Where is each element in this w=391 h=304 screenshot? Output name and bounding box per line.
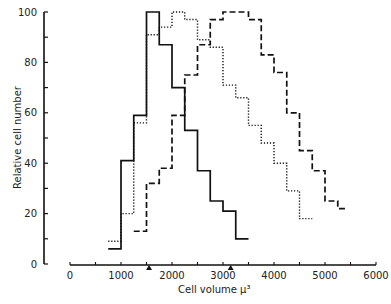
y-axis-label: Relative cell number — [12, 83, 23, 193]
y-tick-label: 80 — [24, 57, 37, 68]
series-dotted-line — [108, 12, 312, 241]
y-tick-label: 40 — [24, 158, 37, 169]
x-tick-label: 4000 — [261, 270, 286, 281]
y-tick-label: 0 — [31, 259, 37, 270]
x-tick-label: 2000 — [159, 270, 184, 281]
y-tick-label: 20 — [24, 208, 37, 219]
x-tick-label: 5000 — [312, 270, 337, 281]
x-axis: 0100020003000400050006000 — [67, 262, 389, 281]
x-tick-label: 0 — [67, 270, 73, 281]
x-tick-label: 3000 — [210, 270, 235, 281]
y-tick-label: 100 — [18, 7, 37, 18]
x-axis-label: Cell volume µ³ — [178, 284, 250, 295]
x-tick-label: 1000 — [108, 270, 133, 281]
x-tick-label: 6000 — [363, 270, 388, 281]
chart-canvas: 0204060801000100020003000400050006000 — [0, 0, 391, 304]
y-tick-label: 60 — [24, 107, 37, 118]
